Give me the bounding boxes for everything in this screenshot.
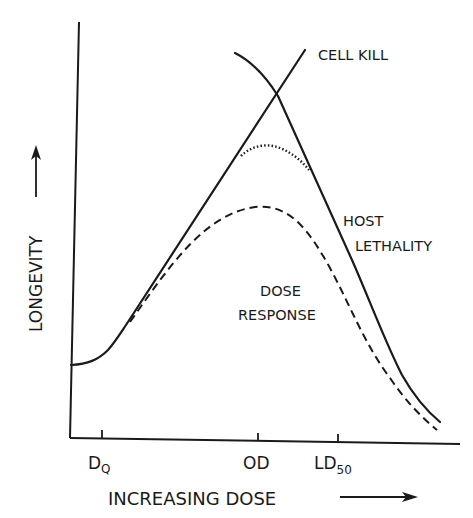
cell-kill-label: CELL KILL (318, 47, 388, 63)
tick-label-ld50: LD50 (314, 453, 352, 477)
tick-label-od: OD (243, 453, 269, 473)
y-axis-label: LONGEVITY (26, 235, 46, 332)
dose-label-line1: DOSE (260, 283, 301, 299)
dotted-envelope-curve (241, 145, 309, 170)
host-label-line1: HOST (343, 213, 384, 229)
dose-label-line2: RESPONSE (238, 307, 316, 323)
host-label-line2: LETHALITY (355, 238, 432, 254)
x-axis-label: INCREASING DOSE (108, 488, 276, 509)
x-axis (70, 438, 460, 444)
dose-response-diagram: CELL KILL HOST LETHALITY DOSE RESPONSE L… (0, 0, 473, 518)
y-axis (70, 22, 79, 438)
tick-label-dq: DQ (88, 453, 111, 476)
